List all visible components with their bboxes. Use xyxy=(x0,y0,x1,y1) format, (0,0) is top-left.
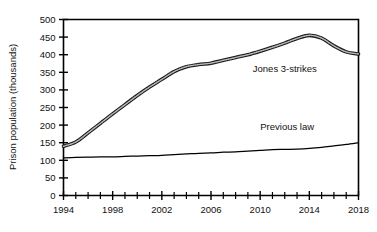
x-axis-tick-label: 2006 xyxy=(200,204,221,215)
x-axis-tick-label: 2002 xyxy=(151,204,172,215)
y-axis-tick-label: 350 xyxy=(40,67,56,78)
axis-frame-path xyxy=(64,20,359,196)
y-axis-tick-label: 150 xyxy=(40,137,56,148)
y-axis-tick-label: 0 xyxy=(50,190,55,201)
y-axis-tick-label: 500 xyxy=(40,14,56,25)
x-axis-tick-label: 1998 xyxy=(102,204,123,215)
series-jones-3-strikes xyxy=(64,35,359,146)
series-line xyxy=(64,143,359,158)
y-axis-title: Prison population (thousands) xyxy=(7,44,18,170)
series-previous-law xyxy=(64,143,359,158)
series-line-hatch xyxy=(64,35,359,146)
series-line-outer xyxy=(64,35,359,146)
y-axis-tick-label: 200 xyxy=(40,120,56,131)
chart-container: 050100150200250300350400450500 199419982… xyxy=(0,0,377,232)
x-axis-tick-label: 1994 xyxy=(53,204,74,215)
y-axis-tick-label: 300 xyxy=(40,84,56,95)
y-axis-tick-label: 250 xyxy=(40,102,56,113)
series-label-previous-law: Previous law xyxy=(260,121,314,132)
x-axis-tick-labels: 1994199820022006201020142018 xyxy=(53,204,369,215)
series-label-jones-3-strikes: Jones 3-strikes xyxy=(253,63,317,74)
y-axis-tick-labels: 050100150200250300350400450500 xyxy=(40,14,56,201)
y-axis-tick-label: 450 xyxy=(40,32,56,43)
x-axis-tick-label: 2010 xyxy=(250,204,271,215)
y-axis-tick-label: 100 xyxy=(40,155,56,166)
prison-population-line-chart: 050100150200250300350400450500 199419982… xyxy=(0,0,377,232)
x-axis-tick-label: 2014 xyxy=(299,204,320,215)
y-axis-tick-label: 400 xyxy=(40,49,56,60)
x-axis-tick-label: 2018 xyxy=(348,204,369,215)
series-layer xyxy=(64,35,359,158)
y-axis-tick-label: 50 xyxy=(45,172,56,183)
plot-frame xyxy=(64,20,359,196)
